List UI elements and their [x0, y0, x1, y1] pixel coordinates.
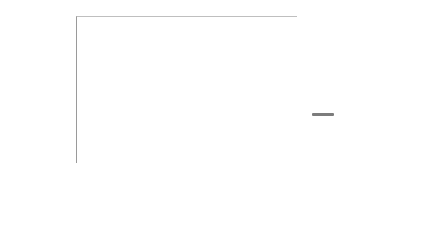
x-axis-tick-labels	[76, 163, 297, 231]
legend-swatch-total-confirmed-cases	[312, 113, 334, 116]
line-chart	[0, 0, 443, 231]
legend	[312, 113, 339, 116]
plot-area	[76, 16, 297, 163]
y-axis-tick-labels	[20, 16, 73, 163]
series-line-total-confirmed-cases	[77, 17, 297, 163]
